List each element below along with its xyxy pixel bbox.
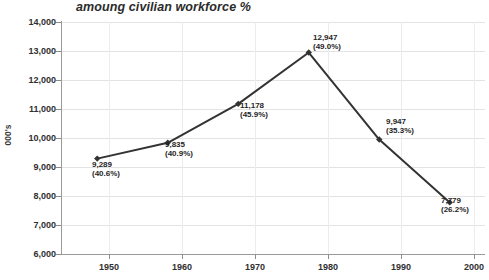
x-axis-line	[61, 254, 485, 255]
data-point-percent: (40.9%)	[165, 149, 193, 158]
gridline-horizontal	[62, 196, 485, 197]
data-point-percent: (35.3%)	[386, 126, 414, 135]
gridline-vertical	[474, 22, 475, 254]
gridline-horizontal	[62, 225, 485, 226]
data-point-percent: (49.0%)	[313, 42, 341, 51]
gridline-horizontal	[62, 138, 485, 139]
data-point-value: 12,947	[313, 33, 337, 42]
y-tick-label: 7,000	[33, 220, 56, 230]
x-tick-label: 2000	[464, 262, 484, 272]
line-chart: amoung civilian workforce % 000's 14,000…	[0, 0, 489, 280]
y-tick-mark	[56, 254, 61, 255]
data-point-value: 9,835	[165, 140, 185, 149]
y-tick-mark	[56, 22, 61, 23]
gridline-horizontal	[62, 167, 485, 168]
x-tick-label: 1980	[318, 262, 338, 272]
x-tick-label: 1990	[391, 262, 411, 272]
data-point-label: 11,178 (45.9%)	[240, 101, 268, 119]
data-point-percent: (26.2%)	[441, 205, 469, 214]
data-point-percent: (40.6%)	[92, 169, 120, 178]
gridline-horizontal	[62, 22, 485, 23]
data-point-label: 9,947 (35.3%)	[386, 117, 414, 135]
x-tick-label: 1950	[99, 262, 119, 272]
y-tick-label: 14,000	[28, 17, 56, 27]
x-tick-mark	[474, 254, 475, 259]
gridline-horizontal	[62, 80, 485, 81]
y-tick-label: 9,000	[33, 162, 56, 172]
gridline-vertical	[255, 22, 256, 254]
gridline-vertical	[109, 22, 110, 254]
y-tick-mark	[56, 51, 61, 52]
x-tick-label: 1970	[245, 262, 265, 272]
y-tick-mark	[56, 225, 61, 226]
y-tick-mark	[56, 109, 61, 110]
y-axis-tick-labels: 14,000 13,000 12,000 11,000 10,000 9,000…	[6, 0, 56, 280]
gridline-horizontal	[62, 51, 485, 52]
data-point-value: 9,947	[386, 117, 406, 126]
data-point-label: 9,289 (40.6%)	[92, 160, 120, 178]
y-tick-mark	[56, 196, 61, 197]
y-tick-mark	[56, 167, 61, 168]
x-tick-mark	[109, 254, 110, 259]
gridline-vertical	[182, 22, 183, 254]
x-tick-label: 1960	[172, 262, 192, 272]
x-tick-mark	[401, 254, 402, 259]
plot-area	[62, 22, 485, 254]
y-tick-label: 11,000	[29, 104, 56, 114]
data-point-percent: (45.9%)	[240, 110, 268, 119]
data-point-value: 9,289	[92, 160, 112, 169]
y-tick-label: 12,000	[28, 75, 56, 85]
y-tick-label: 6,000	[33, 249, 56, 259]
data-point-label: 9,835 (40.9%)	[165, 140, 193, 158]
data-point-label: 12,947 (49.0%)	[313, 33, 341, 51]
x-tick-mark	[182, 254, 183, 259]
y-tick-label: 10,000	[28, 133, 56, 143]
gridline-vertical	[401, 22, 402, 254]
x-tick-mark	[255, 254, 256, 259]
y-tick-mark	[56, 138, 61, 139]
gridline-vertical	[328, 22, 329, 254]
y-tick-label: 13,000	[28, 46, 56, 56]
y-tick-mark	[56, 80, 61, 81]
y-axis-line	[61, 21, 62, 255]
gridline-horizontal	[62, 109, 485, 110]
data-point-label: 7,779 (26.2%)	[441, 196, 469, 214]
chart-title: amoung civilian workforce %	[76, 0, 251, 14]
y-tick-label: 8,000	[33, 191, 56, 201]
data-point-value: 7,779	[441, 196, 461, 205]
data-point-value: 11,178	[240, 101, 264, 110]
x-tick-mark	[328, 254, 329, 259]
